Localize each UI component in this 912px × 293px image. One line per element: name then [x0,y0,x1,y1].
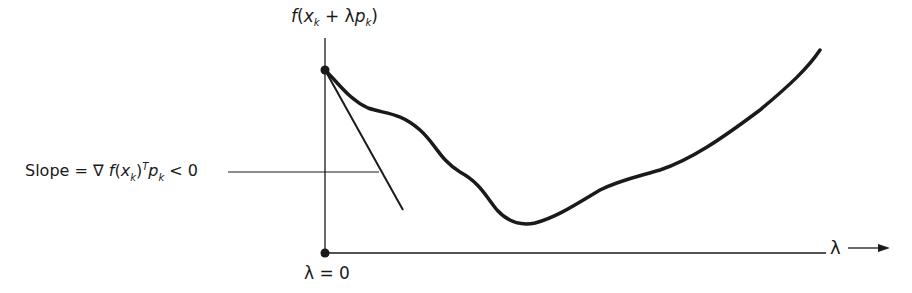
x-axis-arrowhead-icon [878,244,890,252]
start-point [321,66,330,75]
label-p: p [355,6,366,26]
y-axis-label: f(xk + λpk) [291,8,378,28]
slope-prefix: Slope = ∇ [25,161,109,180]
line-search-diagram [0,0,912,293]
origin-label: λ = 0 [304,265,350,282]
label-close-paren: ) [371,6,378,26]
slope-label: Slope = ∇ f(xk)Tpk < 0 [25,162,198,183]
label-open-paren: ( [297,6,304,26]
label-x: x [304,6,314,26]
tangent-line [325,70,403,210]
slope-x: x [121,161,130,180]
label-plus-lambda: + λ [320,6,355,26]
x-axis-label: λ [830,239,841,257]
slope-p: p [148,161,158,180]
function-curve [325,50,820,224]
origin-point [321,249,330,258]
slope-suffix: < 0 [164,161,198,180]
